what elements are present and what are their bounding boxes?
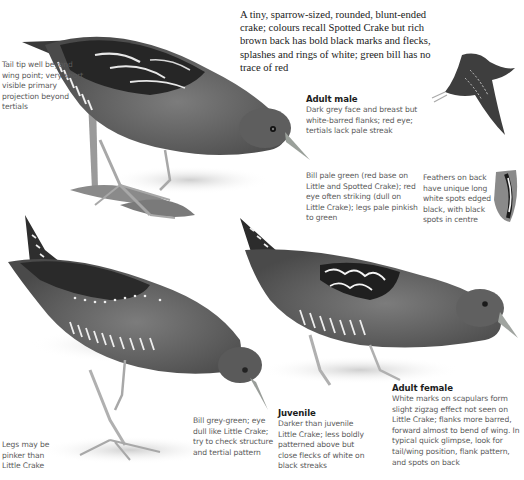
field-guide-plate: A tiny, sparrow-sized, rounded, blunt-en… [0,0,524,480]
bill [250,378,268,410]
caption-bill: Bill pale green (red base on Little and … [306,171,418,224]
feather-detail-illustration [494,170,517,222]
caption-juvenile-bill: Bill grey-green; eye dull like Little Cr… [193,416,273,458]
caption-feathers: Feathers on back have unique long white … [423,173,495,226]
adult-female-illustration [240,218,518,385]
caption-tail-tip: Tail tip well beyond wing point; very sh… [2,60,92,113]
caption-heading: Adult female [392,383,524,394]
caption-heading: Juvenile [278,408,368,419]
caption-legs: Legs may be pinker than Little Crake [2,440,62,472]
caption-juvenile: Juvenile Darker than juvenile Little Cra… [278,408,368,472]
caption-adult-male: Adult male Dark grey face and breast but… [306,94,436,137]
species-summary: A tiny, sparrow-sized, rounded, blunt-en… [240,8,440,74]
caption-body: Darker than juvenile Little Crake; less … [278,419,364,470]
caption-heading: Adult male [306,94,436,105]
caption-body: Dark grey face and breast but white-barr… [306,105,417,135]
caption-adult-female: Adult female White marks on scapulars fo… [392,383,524,468]
caption-body: White marks on scapulars form slight zig… [392,394,519,467]
bill [498,312,518,338]
flight-illustration [432,54,515,135]
